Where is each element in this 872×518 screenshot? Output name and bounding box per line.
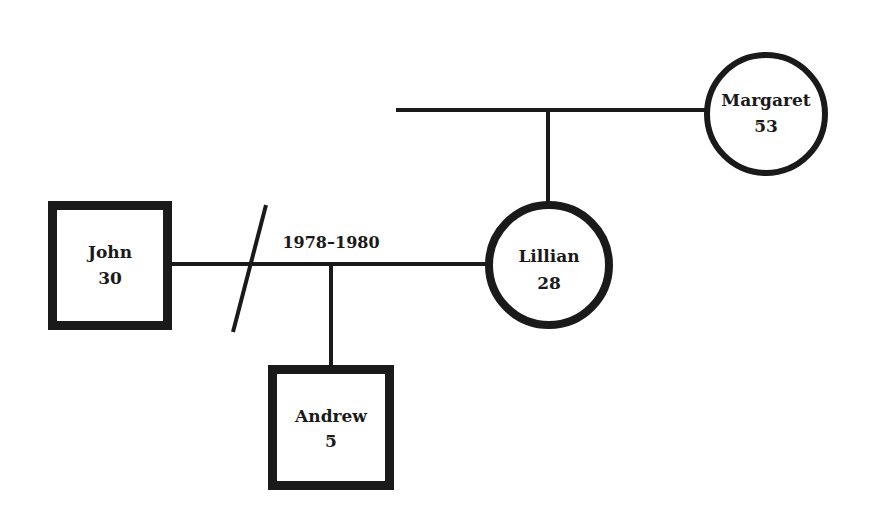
female-circle-icon — [707, 55, 825, 173]
person-andrew[interactable]: Andrew 5 — [273, 370, 390, 486]
person-age: 53 — [754, 116, 778, 136]
person-name: Margaret — [721, 90, 810, 110]
person-john[interactable]: John 30 — [53, 206, 168, 326]
person-age: 28 — [537, 273, 561, 293]
marriage-years-label: 1978–1980 — [282, 233, 379, 252]
person-margaret[interactable]: Margaret 53 — [707, 55, 825, 173]
person-age: 30 — [98, 268, 122, 288]
male-square-icon — [53, 206, 168, 326]
divorce-slash — [233, 205, 266, 332]
person-name: Lillian — [518, 246, 579, 266]
person-name: Andrew — [294, 406, 367, 426]
male-square-icon — [273, 370, 390, 486]
person-age: 5 — [325, 431, 337, 451]
person-name: John — [86, 242, 132, 262]
person-lillian[interactable]: Lillian 28 — [489, 205, 609, 325]
genogram-canvas: 1978–1980 John 30 Andrew 5 Lillian 28 Ma… — [0, 0, 872, 518]
